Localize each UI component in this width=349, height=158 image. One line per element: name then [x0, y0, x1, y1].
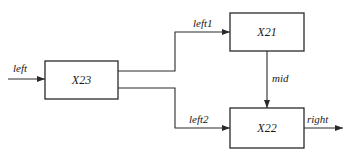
signal-label-left: left [13, 62, 28, 74]
block-x22-label: X22 [256, 121, 276, 135]
block-x23: X23 [45, 61, 118, 99]
block-x22: X22 [230, 108, 304, 148]
signal-label-right: right [307, 113, 329, 125]
block-x23-label: X23 [71, 73, 91, 87]
signal-label-mid: mid [272, 72, 289, 84]
signal-label-left2: left2 [189, 113, 209, 125]
block-x21-label: X21 [256, 25, 276, 39]
block-diagram: left X23 left1 left2 X21 mid X22 right [0, 0, 349, 158]
signal-label-left1: left1 [193, 17, 213, 29]
block-x21: X21 [230, 13, 304, 51]
branch-wire-left2 [118, 88, 230, 128]
branch-wire-left1 [118, 32, 230, 71]
